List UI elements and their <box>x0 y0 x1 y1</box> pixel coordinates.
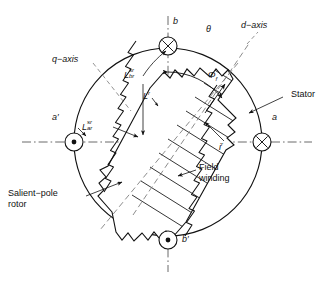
field-winding-line1: Field <box>199 162 219 172</box>
coil-label-a: a <box>272 112 277 122</box>
lr-superscript: r <box>148 90 150 96</box>
phif-subscript: f <box>216 76 218 82</box>
field-winding-line2: winding <box>199 173 230 183</box>
field-current-label: ir <box>219 139 223 152</box>
winding-turn <box>222 55 286 95</box>
phif-base: Φ <box>208 70 216 80</box>
stator-label: Stator <box>291 89 315 99</box>
coil-marker-b-prime <box>159 231 177 249</box>
field-winding-label: Field winding <box>199 162 259 183</box>
field-flux-label: Φf <box>208 70 217 84</box>
coil-label-b-prime: b′ <box>182 234 189 244</box>
coil-marker-b <box>159 37 177 55</box>
lar-subscript: ar <box>87 123 92 133</box>
theta-angle-label: θ <box>206 24 211 34</box>
salient-pole-rotor-label: Salient−pole rotor <box>8 188 88 209</box>
rotor-label-line1: Salient−pole <box>8 188 58 198</box>
mutual-inductance-br-label: Lsrbr <box>124 68 138 80</box>
d-axis-label: d−axis <box>241 20 267 30</box>
d-axis-label-leader <box>247 32 258 44</box>
coil-label-a-prime: a′ <box>52 112 59 122</box>
rotor-self-inductance-label: Lr <box>143 88 150 101</box>
coil-marker-a <box>253 133 271 151</box>
diagram-canvas: b a′ a b′ θ d−axis q−axis Stator Salient… <box>0 0 333 287</box>
machine-cross-section-svg <box>0 0 333 287</box>
ir-superscript: r <box>221 141 223 147</box>
coil-marker-a-prime <box>65 133 83 151</box>
q-axis-label: q−axis <box>52 54 78 64</box>
mutual-inductance-ar-label: Lsrar <box>82 120 96 132</box>
coil-label-b: b <box>173 16 178 26</box>
lbr-upper-leader <box>143 51 166 76</box>
rotor-label-line2: rotor <box>8 199 27 209</box>
lbr-subscript: br <box>129 71 134 81</box>
